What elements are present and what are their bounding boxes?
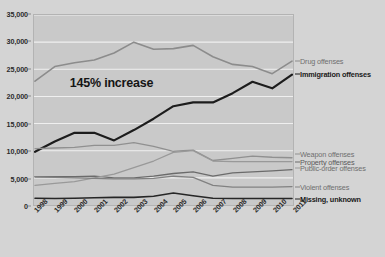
y-tick-label: 20,000 bbox=[7, 92, 28, 101]
y-tick-label: 15,000 bbox=[7, 119, 28, 128]
y-tick-label: 25,000 bbox=[7, 64, 28, 73]
series-label-violent-offenses: Violent offenses bbox=[300, 183, 349, 192]
series-line-weapon-offenses bbox=[35, 143, 292, 161]
y-tick-mark bbox=[28, 41, 31, 42]
series-label-public-order-offenses: Public-order offenses bbox=[300, 164, 366, 173]
y-tick-mark bbox=[28, 123, 31, 124]
y-tick-mark bbox=[28, 178, 31, 179]
series-label-drug-offenses: Drug offenses bbox=[300, 56, 343, 65]
plot-svg bbox=[34, 15, 293, 205]
y-tick-label: 5,000 bbox=[11, 174, 29, 183]
series-label-missing-unknown: Missing, unknown bbox=[300, 195, 361, 204]
y-tick-label: 35,000 bbox=[7, 10, 28, 19]
series-legend: Drug offensesImmigration offensesWeapon … bbox=[295, 0, 385, 257]
y-tick-mark bbox=[28, 14, 31, 15]
y-tick-mark bbox=[28, 151, 31, 152]
series-label-immigration-offenses: Immigration offenses bbox=[300, 70, 371, 79]
y-axis: 05,00010,00015,00020,00025,00030,00035,0… bbox=[0, 14, 31, 206]
y-tick-mark bbox=[28, 68, 31, 69]
x-axis: 1998199920002001200220032004200520062007… bbox=[33, 206, 294, 254]
y-tick-mark bbox=[28, 96, 31, 97]
annotation-145-increase: 145% increase bbox=[70, 76, 154, 90]
series-line-property-offenses bbox=[35, 170, 292, 178]
plot-area bbox=[33, 14, 294, 206]
y-tick-label: 30,000 bbox=[7, 37, 28, 46]
chart-figure: 05,00010,00015,00020,00025,00030,00035,0… bbox=[0, 0, 385, 257]
y-tick-label: 10,000 bbox=[7, 147, 28, 156]
y-tick-mark bbox=[28, 206, 31, 207]
